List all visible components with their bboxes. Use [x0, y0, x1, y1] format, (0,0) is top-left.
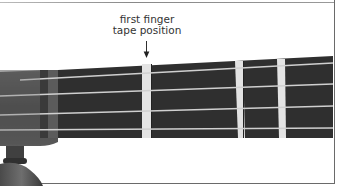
annotation-label: first finger tape position — [112, 14, 182, 36]
tape-first-finger — [142, 64, 151, 138]
annotation-line-2: tape position — [112, 25, 182, 36]
figure-frame: first finger tape position — [0, 0, 337, 186]
fingerboard — [58, 56, 333, 138]
down-arrow-icon — [143, 41, 150, 58]
tuning-peg — [0, 146, 43, 186]
